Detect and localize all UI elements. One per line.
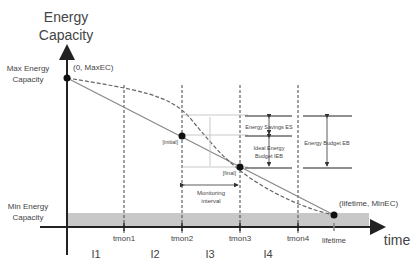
point-end-label: (lifetime, MinEC) (339, 199, 398, 208)
point-initial (179, 133, 186, 140)
y-axis-title-line2: Capacity (39, 27, 93, 43)
min-label-line2: Capacity (12, 213, 43, 222)
interval-label-i2: I2 (150, 248, 159, 260)
point-final-label: [final] (223, 170, 237, 176)
interval-label-i1: I1 (91, 248, 100, 260)
max-label-line1: Max Energy (7, 64, 50, 73)
ideal-budget-label-line1: Ideal Energy (254, 145, 285, 151)
monitoring-label-line2: interval (201, 198, 220, 204)
x-axis-title: time (384, 232, 411, 248)
energy-capacity-diagram: Energy Capacity Max Energy Capacity Min … (0, 0, 413, 271)
tick-label-tmon4: tmon4 (287, 234, 310, 243)
y-axis-title-line1: Energy (44, 9, 88, 25)
monitoring-label-line1: Monitoring (197, 190, 225, 196)
energy-budget-label: Energy Budget EB (304, 140, 350, 146)
min-energy-band (67, 213, 369, 227)
tick-label-tmon1: tmon1 (113, 234, 136, 243)
tick-label-lifetime: lifetime (322, 236, 346, 245)
point-start-label: (0, MaxEC) (73, 63, 114, 72)
point-initial-label: [initial] (162, 139, 178, 145)
point-end (331, 212, 338, 219)
min-label-line1: Min Energy (8, 202, 48, 211)
interval-label-i3: I3 (205, 248, 214, 260)
ideal-budget-label-line2: Budget IEB (255, 153, 283, 159)
point-start (64, 75, 71, 82)
tick-label-tmon2: tmon2 (171, 234, 194, 243)
interval-label-i4: I4 (263, 248, 272, 260)
tick-label-tmon3: tmon3 (229, 234, 252, 243)
point-final (237, 164, 244, 171)
max-label-line2: Capacity (12, 75, 43, 84)
energy-savings-label: Energy Savings ES (245, 124, 293, 130)
